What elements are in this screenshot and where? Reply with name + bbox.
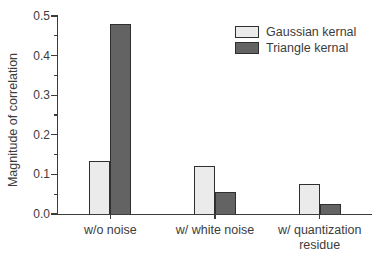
y-axis-tick-label: 0.5: [18, 9, 50, 23]
legend-swatch-triangle-kernal: [235, 42, 259, 54]
bar-gaussian-kernal-1: [89, 161, 110, 214]
bar-triangle-kernal-2: [215, 192, 236, 214]
y-axis-major-tick: [51, 213, 58, 214]
y-axis-tick-label: 0.3: [18, 88, 50, 102]
y-axis-minor-tick: [54, 114, 58, 115]
legend-swatch-gaussian-kernal: [235, 26, 259, 38]
x-axis-tick: [110, 214, 111, 219]
x-category-label: w/ quantization residue: [260, 223, 380, 253]
y-axis-major-tick: [51, 15, 58, 16]
y-axis-tick-label: 0.4: [18, 49, 50, 63]
y-axis-minor-tick: [54, 154, 58, 155]
legend-item-gaussian-kernal: Gaussian kernal: [235, 25, 356, 39]
bar-triangle-kernal-3: [320, 204, 341, 214]
x-category-label: w/o noise: [50, 223, 170, 238]
bar-gaussian-kernal-2: [194, 166, 215, 214]
bar-triangle-kernal-1: [110, 24, 131, 214]
x-axis-tick: [214, 214, 215, 219]
y-axis-tick-label: 0.2: [18, 128, 50, 142]
x-axis-tick: [319, 214, 320, 219]
bar-gaussian-kernal-3: [299, 184, 320, 214]
y-axis-minor-tick: [54, 35, 58, 36]
bar-chart-figure: Magnitude of correlation 0.00.10.20.30.4…: [0, 0, 385, 260]
legend-label-triangle-kernal: Triangle kernal: [266, 41, 348, 55]
y-axis-major-tick: [51, 134, 58, 135]
y-axis-tick-label: 0.0: [18, 207, 50, 221]
y-axis-tick-label: 0.1: [18, 167, 50, 181]
y-axis-major-tick: [51, 55, 58, 56]
y-axis-major-tick: [51, 174, 58, 175]
legend-item-triangle-kernal: Triangle kernal: [235, 41, 356, 55]
y-axis-minor-tick: [54, 194, 58, 195]
y-axis-major-tick: [51, 95, 58, 96]
legend-label-gaussian-kernal: Gaussian kernal: [266, 25, 356, 39]
x-category-label: w/ white noise: [155, 223, 275, 238]
legend: Gaussian kernal Triangle kernal: [235, 25, 356, 55]
y-axis-minor-tick: [54, 75, 58, 76]
